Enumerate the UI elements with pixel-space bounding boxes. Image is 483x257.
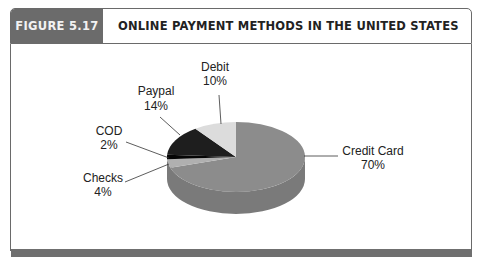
- label-paypal-name: Paypal: [138, 84, 175, 98]
- leader-paypal: [160, 117, 180, 135]
- label-cod-name: COD: [96, 124, 123, 138]
- leader-cod: [126, 142, 169, 158]
- label-credit-pct: 70%: [361, 158, 385, 172]
- label-paypal-pct: 14%: [144, 99, 168, 113]
- label-debit-name: Debit: [201, 60, 230, 74]
- label-checks-name: Checks: [83, 171, 123, 185]
- leader-debit: [219, 95, 221, 124]
- label-cod-pct: 2%: [100, 138, 118, 152]
- leader-checks: [125, 164, 169, 182]
- label-credit-name: Credit Card: [342, 144, 403, 158]
- label-checks-pct: 4%: [94, 185, 112, 199]
- label-debit-pct: 10%: [203, 74, 227, 88]
